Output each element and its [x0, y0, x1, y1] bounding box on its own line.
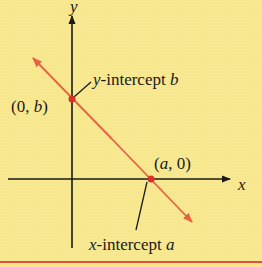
- diagram-canvas: y x y-intercept b (0, b) (a, 0) x-interc…: [0, 0, 262, 267]
- y-axis-label: y: [68, 0, 78, 16]
- x-intercept-point: [148, 176, 155, 183]
- x-intercept-label: x-intercept a: [88, 235, 174, 254]
- bottom-rule: [0, 261, 262, 263]
- y-intercept-label-var: b: [170, 70, 179, 89]
- y-intercept-label-text: -intercept: [101, 70, 170, 89]
- y-intercept-label-var-prefix: y: [91, 70, 101, 89]
- x-intercept-label-var: a: [166, 235, 175, 254]
- intercepts-diagram: y x y-intercept b (0, b) (a, 0) x-interc…: [0, 0, 262, 267]
- coord-var: b: [34, 97, 43, 116]
- y-intercept-point: [69, 96, 76, 103]
- y-intercept-coordinate: (0, b): [11, 97, 48, 116]
- x-intercept-leader: [136, 182, 147, 230]
- y-intercept-label: y-intercept b: [91, 70, 178, 89]
- coord-close: , 0): [168, 154, 191, 173]
- x-intercept-coordinate: (a, 0): [154, 154, 191, 173]
- coord-close: ): [42, 97, 48, 116]
- x-axis-label: x: [237, 175, 246, 194]
- coord-open: (0,: [11, 97, 34, 116]
- coord-var: a: [160, 154, 169, 173]
- y-intercept-leader: [74, 82, 91, 97]
- x-intercept-label-text: -intercept: [97, 235, 166, 254]
